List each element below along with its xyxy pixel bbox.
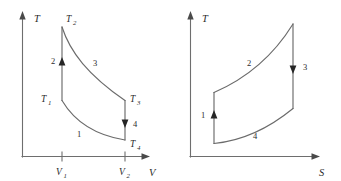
ts-direction-arrows [211, 66, 297, 119]
ts-process-label-4: 4 [253, 131, 258, 141]
ts-y-axis-arrowhead [187, 11, 193, 20]
ts-process-label-2: 2 [247, 58, 251, 68]
ts-arrow-down-process-3 [290, 66, 297, 75]
ts-process-label-1: 1 [201, 110, 205, 120]
ts-x-axis-arrowhead [312, 153, 321, 159]
ts-arrow-up-process-1 [211, 110, 218, 119]
ts-x-axis-label: S [319, 167, 325, 178]
ts-y-axis-label: T [202, 13, 209, 24]
ts-diagram: T S 1 2 3 4 [0, 0, 341, 181]
ts-cycle [214, 24, 293, 144]
figure-canvas: T V V 1 V 2 T 2 T 1 T 3 T 4 2 3 1 [0, 0, 341, 181]
ts-process-2-curve [214, 24, 293, 93]
ts-process-label-3: 3 [303, 62, 307, 72]
